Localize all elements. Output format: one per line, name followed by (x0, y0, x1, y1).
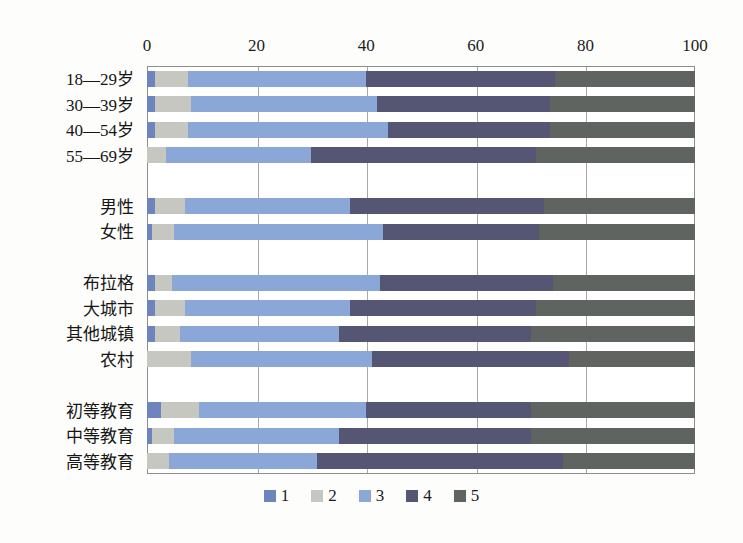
x-tick-label: 60 (467, 36, 484, 56)
category-label: 40—54岁 (66, 122, 134, 139)
bar-segment-series-3 (169, 453, 317, 469)
bar-segment-series-5 (555, 71, 695, 87)
category-label: 高等教育 (66, 454, 134, 471)
bar-segment-series-3 (180, 326, 339, 342)
legend-label: 1 (281, 487, 290, 504)
bar-row (147, 453, 695, 469)
bar-segment-series-2 (152, 428, 174, 444)
legend-item: 4 (406, 487, 432, 504)
category-label: 大城市 (83, 301, 134, 318)
bar-segment-series-4 (311, 147, 536, 163)
legend-swatch-icon (311, 490, 323, 502)
bar-row (147, 71, 695, 87)
bar-segment-series-3 (174, 224, 382, 240)
category-label: 18—29岁 (66, 71, 134, 88)
bar-segment-series-4 (380, 275, 553, 291)
bar-row (147, 198, 695, 214)
legend-item: 2 (311, 487, 337, 504)
bar-segment-series-4 (339, 428, 531, 444)
bars-layer (147, 66, 695, 474)
bar-segment-series-5 (550, 122, 695, 138)
legend-label: 4 (423, 487, 432, 504)
category-label: 初等教育 (66, 403, 134, 420)
x-tick-label: 40 (358, 36, 375, 56)
bar-segment-series-3 (166, 147, 311, 163)
bar-segment-series-1 (147, 71, 155, 87)
bar-segment-series-5 (531, 402, 695, 418)
chart-legend: 12345 (0, 487, 743, 504)
x-tick-label: 20 (248, 36, 265, 56)
bar-segment-series-5 (539, 224, 695, 240)
bar-segment-series-1 (147, 402, 161, 418)
x-tick-label: 0 (143, 36, 152, 56)
bar-segment-series-3 (191, 96, 377, 112)
bar-row (147, 275, 695, 291)
bar-segment-series-1 (147, 275, 155, 291)
category-label: 男性 (100, 199, 134, 216)
bar-segment-series-4 (383, 224, 539, 240)
bar-segment-series-1 (147, 326, 155, 342)
bar-segment-series-5 (544, 198, 695, 214)
bar-segment-series-3 (185, 198, 349, 214)
legend-swatch-icon (359, 490, 371, 502)
y-axis-category-labels: 18—29岁30—39岁40—54岁55—69岁男性女性布拉格大城市其他城镇农村… (0, 66, 142, 474)
bar-segment-series-2 (155, 96, 191, 112)
bar-segment-series-3 (188, 122, 388, 138)
bar-segment-series-5 (536, 147, 695, 163)
bar-row (147, 300, 695, 316)
bar-segment-series-2 (155, 122, 188, 138)
bar-segment-series-3 (191, 351, 372, 367)
legend-swatch-icon (454, 490, 466, 502)
bar-segment-series-2 (155, 198, 185, 214)
bar-segment-series-5 (531, 428, 695, 444)
category-label: 中等教育 (66, 428, 134, 445)
bar-segment-series-1 (147, 300, 155, 316)
bar-segment-series-4 (317, 453, 564, 469)
legend-swatch-icon (406, 490, 418, 502)
bar-segment-series-2 (155, 71, 188, 87)
category-label: 30—39岁 (66, 97, 134, 114)
bar-row (147, 122, 695, 138)
legend-label: 5 (471, 487, 480, 504)
bar-segment-series-4 (388, 122, 550, 138)
bar-segment-series-4 (372, 351, 569, 367)
legend-item: 3 (359, 487, 385, 504)
bar-segment-series-1 (147, 198, 155, 214)
bar-segment-series-5 (550, 96, 695, 112)
x-tick-label: 80 (577, 36, 594, 56)
bar-segment-series-4 (350, 300, 536, 316)
bar-row (147, 428, 695, 444)
bar-segment-series-2 (155, 326, 180, 342)
bar-segment-series-3 (188, 71, 366, 87)
bar-row (147, 224, 695, 240)
bar-segment-series-2 (147, 351, 191, 367)
bar-segment-series-3 (199, 402, 366, 418)
legend-label: 3 (376, 487, 385, 504)
x-axis-tick-labels: 020406080100 (147, 36, 695, 58)
category-label: 布拉格 (83, 275, 134, 292)
category-label: 其他城镇 (66, 326, 134, 343)
bar-segment-series-2 (155, 300, 185, 316)
bar-segment-series-5 (563, 453, 695, 469)
bar-segment-series-1 (147, 122, 155, 138)
category-label: 农村 (100, 352, 134, 369)
bar-row (147, 147, 695, 163)
bar-segment-series-2 (161, 402, 199, 418)
bar-segment-series-4 (350, 198, 545, 214)
bar-segment-series-2 (147, 147, 166, 163)
legend-item: 5 (454, 487, 480, 504)
bar-segment-series-3 (172, 275, 380, 291)
bar-segment-series-5 (553, 275, 695, 291)
bar-segment-series-2 (152, 224, 174, 240)
bar-segment-series-4 (377, 96, 550, 112)
x-tick-label: 100 (682, 36, 708, 56)
bar-segment-series-2 (155, 275, 171, 291)
bar-segment-series-5 (536, 300, 695, 316)
bar-segment-series-3 (185, 300, 349, 316)
bar-segment-series-1 (147, 96, 155, 112)
bar-segment-series-4 (366, 71, 555, 87)
legend-swatch-icon (264, 490, 276, 502)
legend-item: 1 (264, 487, 290, 504)
bar-row (147, 351, 695, 367)
bar-segment-series-4 (366, 402, 530, 418)
